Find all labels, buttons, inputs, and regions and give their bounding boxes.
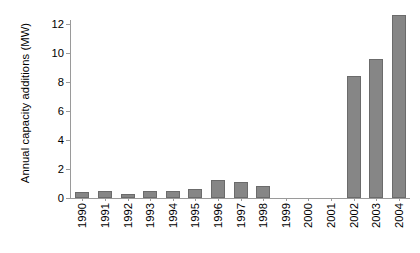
x-tick-mark xyxy=(150,198,151,201)
x-tick-mark xyxy=(128,198,129,201)
bar xyxy=(369,59,383,198)
y-tick-label: 10 xyxy=(36,46,64,60)
x-tick-mark xyxy=(263,198,264,201)
y-axis-title: Annual capacity additions (MW) xyxy=(14,3,36,203)
bar xyxy=(392,15,406,198)
x-tick-mark xyxy=(105,198,106,201)
x-tick-mark xyxy=(399,198,400,201)
bar-chart: Annual capacity additions (MW) 024681012… xyxy=(0,0,420,253)
bar xyxy=(98,191,112,198)
bar xyxy=(347,76,361,198)
y-tick-label: 0 xyxy=(36,191,64,205)
x-tick-label: 1994 xyxy=(167,203,179,228)
x-tick-label-wrap: 1997 xyxy=(230,203,252,253)
x-tick-label-wrap: 2003 xyxy=(365,203,387,253)
x-tick-label: 1998 xyxy=(257,203,269,228)
x-tick-mark xyxy=(331,198,332,201)
x-tick-label-wrap: 2004 xyxy=(388,203,410,253)
x-tick-label-wrap: 1994 xyxy=(162,203,184,253)
x-tick-label-wrap: 2001 xyxy=(320,203,342,253)
x-tick-label-wrap: 1993 xyxy=(139,203,161,253)
x-tick-mark xyxy=(286,198,287,201)
x-tick-mark xyxy=(376,198,377,201)
x-tick-label: 2001 xyxy=(325,203,337,228)
x-tick-label: 1999 xyxy=(280,203,292,228)
x-tick-label: 2004 xyxy=(393,203,405,228)
x-tick-label-wrap: 1990 xyxy=(71,203,93,253)
y-tick-label: 6 xyxy=(36,104,64,118)
x-tick-label-wrap: 2002 xyxy=(343,203,365,253)
x-tick-mark xyxy=(82,198,83,201)
x-tick-mark xyxy=(241,198,242,201)
x-tick-label-wrap: 1996 xyxy=(207,203,229,253)
x-tick-mark xyxy=(173,198,174,201)
x-tick-label-wrap: 1999 xyxy=(275,203,297,253)
x-tick-label-wrap: 2000 xyxy=(297,203,319,253)
x-tick-label: 1996 xyxy=(212,203,224,228)
x-tick-mark xyxy=(308,198,309,201)
bar xyxy=(143,191,157,198)
x-tick-label: 1992 xyxy=(122,203,134,228)
x-tick-mark xyxy=(218,198,219,201)
x-tick-mark xyxy=(195,198,196,201)
x-tick-label: 1993 xyxy=(144,203,156,228)
y-tick-label: 8 xyxy=(36,75,64,89)
x-tick-label-wrap: 1998 xyxy=(252,203,274,253)
bar xyxy=(211,180,225,198)
y-tick-label: 4 xyxy=(36,133,64,147)
x-tick-label: 1995 xyxy=(189,203,201,228)
bar xyxy=(188,189,202,198)
x-tick-label: 2000 xyxy=(302,203,314,228)
y-tick-label: 12 xyxy=(36,17,64,31)
x-tick-label-wrap: 1995 xyxy=(184,203,206,253)
bar xyxy=(256,186,270,198)
x-tick-label: 1997 xyxy=(235,203,247,228)
x-tick-label: 1990 xyxy=(76,203,88,228)
y-tick-label: 2 xyxy=(36,162,64,176)
x-tick-label: 1991 xyxy=(99,203,111,228)
plot-area xyxy=(70,20,410,198)
x-tick-label: 2002 xyxy=(348,203,360,228)
x-tick-label: 2003 xyxy=(370,203,382,228)
x-tick-label-wrap: 1991 xyxy=(94,203,116,253)
y-tick-mark xyxy=(66,198,70,199)
bar xyxy=(234,182,248,198)
bar xyxy=(166,191,180,198)
x-tick-mark xyxy=(354,198,355,201)
x-tick-label-wrap: 1992 xyxy=(117,203,139,253)
